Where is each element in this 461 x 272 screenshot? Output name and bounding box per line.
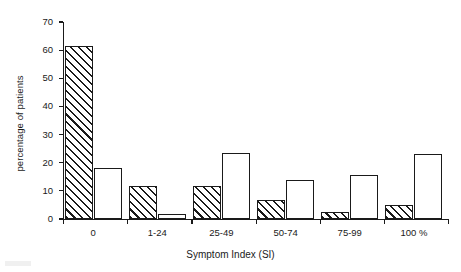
x-axis-tick-label: 1-24 — [148, 227, 167, 238]
y-axis-tick — [59, 106, 64, 107]
x-axis-tick-label: 25-49 — [209, 227, 233, 238]
y-axis-tick-label: 0 — [27, 214, 53, 224]
x-axis-tick — [256, 219, 257, 224]
y-axis-tick — [59, 190, 64, 191]
y-axis-tick — [59, 134, 64, 135]
y-axis-tick-label: 10 — [27, 186, 53, 196]
bar-hatched-100 — [385, 205, 413, 219]
y-axis-tick-label: 20 — [27, 158, 53, 168]
x-axis-tick-label: 0 — [90, 227, 95, 238]
y-axis-tick-label: 70 — [27, 17, 53, 27]
bar-hatched-5074 — [257, 200, 285, 219]
bar-open-5074 — [286, 180, 314, 219]
y-axis-tick-label: 30 — [27, 130, 53, 140]
x-axis-tick — [320, 219, 321, 224]
plot-area — [63, 22, 448, 219]
scan-artifact — [5, 261, 31, 266]
y-axis-tick-label: 40 — [27, 101, 53, 111]
x-axis-tick — [127, 219, 128, 224]
x-axis-tick-label: 75-99 — [338, 227, 362, 238]
y-axis-tick — [59, 78, 64, 79]
y-axis-tick — [59, 162, 64, 163]
y-axis-tick-label: 60 — [27, 45, 53, 55]
x-axis-tick — [191, 219, 192, 224]
y-axis-tick-label: 50 — [27, 73, 53, 83]
x-axis-tick — [384, 219, 385, 224]
bar-open-7599 — [350, 175, 378, 219]
bar-chart-figure: percentage of patients 010203040506070 0… — [0, 0, 461, 272]
y-axis-title: percentage of patients — [14, 39, 25, 209]
x-axis-tick — [448, 219, 449, 224]
bar-hatched-124 — [129, 186, 157, 219]
bar-open-2549 — [222, 153, 250, 219]
y-axis-tick — [59, 21, 64, 22]
bar-hatched-0 — [65, 46, 93, 219]
x-axis-title: Symptom Index (SI) — [0, 249, 461, 260]
bar-open-100 — [414, 154, 442, 219]
x-axis-tick-label: 50-74 — [273, 227, 297, 238]
y-axis-tick — [59, 50, 64, 51]
bar-hatched-7599 — [321, 212, 349, 219]
x-axis-tick-label: 100 % — [400, 227, 427, 238]
bar-hatched-2549 — [193, 186, 221, 219]
bar-open-124 — [158, 214, 186, 219]
bar-open-0 — [94, 168, 122, 219]
x-axis-tick — [63, 219, 64, 224]
